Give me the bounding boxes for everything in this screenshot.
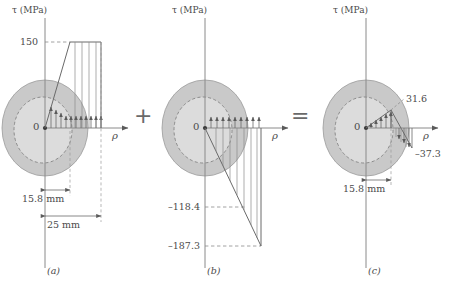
equals-operator: = bbox=[291, 103, 309, 128]
tick-label-minus-187-3: –187.3 bbox=[168, 240, 200, 251]
plus-operator: + bbox=[134, 103, 152, 128]
dimension-label-25mm-a: 25 mm bbox=[47, 219, 80, 230]
rho-axis-label-a: ρ bbox=[112, 130, 118, 141]
figure-svg bbox=[0, 0, 451, 286]
origin-label-c: 0 bbox=[354, 121, 360, 132]
tick-label-31-6: 31.6 bbox=[406, 93, 427, 104]
panel-a bbox=[2, 18, 128, 268]
tau-axis-label-c: τ (MPa) bbox=[333, 5, 368, 15]
origin-label-a: 0 bbox=[33, 121, 39, 132]
panel-caption-b: (b) bbox=[207, 265, 221, 276]
tick-label-minus-118-4: –118.4 bbox=[168, 201, 200, 212]
panel-caption-c: (c) bbox=[368, 265, 381, 276]
panel-c bbox=[323, 18, 438, 268]
dimension-label-15-8mm-a: 15.8 mm bbox=[22, 193, 64, 204]
tick-label-minus-37-3: –37.3 bbox=[415, 148, 441, 159]
panel-caption-a: (a) bbox=[47, 265, 60, 276]
figure-container: τ (MPa) 150 0 ρ 15.8 mm 25 mm (a) + τ (M… bbox=[0, 0, 451, 286]
rho-axis-label-c: ρ bbox=[423, 130, 429, 141]
panel-b bbox=[162, 18, 288, 268]
tau-axis-label-a: τ (MPa) bbox=[12, 5, 47, 15]
dimension-label-15-8mm-c: 15.8 mm bbox=[343, 183, 385, 194]
tick-label-150: 150 bbox=[20, 36, 38, 47]
origin-label-b: 0 bbox=[193, 121, 199, 132]
tau-axis-label-b: τ (MPa) bbox=[172, 5, 207, 15]
rho-axis-label-b: ρ bbox=[272, 130, 278, 141]
